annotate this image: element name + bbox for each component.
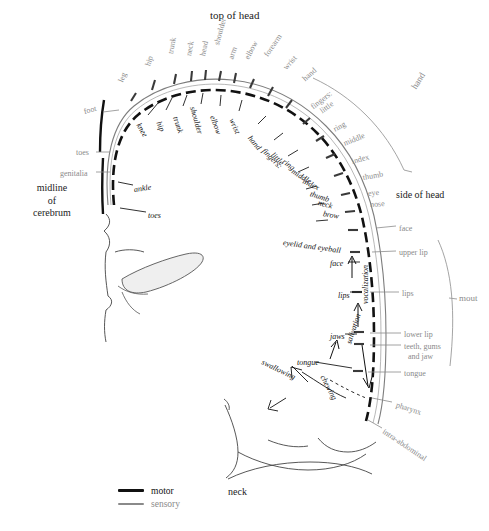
sensory-label-upper-lip: upper lip bbox=[399, 249, 428, 257]
midline-line-1: midline bbox=[10, 182, 94, 195]
motor-label-lips: lips bbox=[338, 292, 350, 300]
sensory-label-eye: eye bbox=[368, 189, 380, 198]
neck-profile bbox=[224, 399, 376, 479]
legend-motor-label: motor bbox=[151, 486, 174, 496]
legend-motor-swatch bbox=[118, 489, 144, 492]
motor-label-toes: toes bbox=[148, 212, 161, 220]
label-neck-bottom: neck bbox=[228, 487, 247, 497]
sensory-label-genitalia: genitalia bbox=[60, 170, 88, 178]
sensory-label-and-jaw: and jaw bbox=[408, 353, 433, 361]
midline-line-2: of bbox=[10, 195, 94, 208]
sensory-label-tongue: tongue bbox=[404, 370, 426, 378]
sensory-label-face: face bbox=[399, 225, 412, 233]
sensory-label-toes: toes bbox=[76, 149, 89, 157]
sensory-label-nose: nose bbox=[370, 200, 385, 209]
sensory-label-lower-lip: lower lip bbox=[404, 331, 433, 339]
midline-line-3: cerebrum bbox=[10, 207, 94, 220]
label-top-of-head: top of head bbox=[210, 10, 259, 21]
sensory-label-teeth-gums: teeth, gums bbox=[404, 343, 441, 351]
face-arrow bbox=[348, 256, 356, 278]
motor-label-vocalization: vocalization bbox=[362, 265, 370, 304]
legend-sensory-swatch bbox=[118, 503, 144, 505]
sensory-tick-marks bbox=[131, 70, 364, 371]
label-bracket-mouth: mout bbox=[459, 294, 478, 303]
sensory-strip-inner-path bbox=[110, 84, 381, 423]
motor-label-tongue: tongue bbox=[297, 359, 319, 367]
legend-sensory-label: sensory bbox=[151, 499, 180, 509]
salivation-arrow bbox=[330, 340, 339, 359]
motor-leader-lines bbox=[118, 93, 362, 368]
sensory-strip-path bbox=[107, 79, 386, 424]
label-midline-of-cerebrum: midline of cerebrum bbox=[10, 182, 94, 220]
sensory-label-lips: lips bbox=[402, 290, 414, 298]
legend: motor sensory bbox=[118, 484, 180, 510]
corpus-callosum bbox=[118, 253, 203, 314]
label-side-of-head: side of head bbox=[396, 190, 444, 200]
motor-label-jaws: jaws bbox=[330, 333, 345, 341]
motor-label-face: face bbox=[330, 260, 343, 268]
motor-strip-path bbox=[113, 90, 374, 421]
homunculus-figure: top of head side of head midline of cere… bbox=[0, 0, 489, 531]
